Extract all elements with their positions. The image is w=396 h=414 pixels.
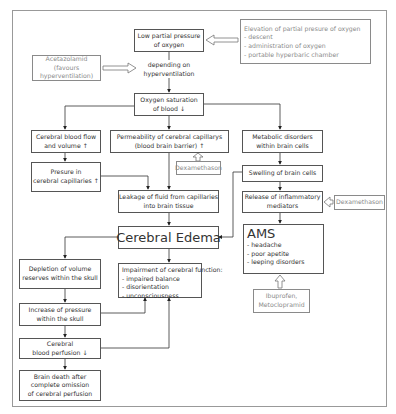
ibuprofen-box: Ibuprofen, Metoclopramid <box>253 289 310 313</box>
cerebral-perfusion-box: Cerebral blood perfusion ↓ <box>19 338 101 359</box>
metabolic-disorders-box: Metabolic disorders within brain cells <box>242 130 323 153</box>
acetazolamid-box: Acetazolamid (favours hyperventilation) <box>32 55 101 81</box>
oxygen-saturation-box: Oxygen saturation of blood ↓ <box>134 93 204 116</box>
impairment-cerebral-function-box: Impairment of cerebral function: - impai… <box>118 263 202 298</box>
inflammatory-mediators-box: Release of inflammatory mediators <box>242 191 323 213</box>
brain-death-box: Brain death after complete omission of c… <box>19 370 101 401</box>
dexamethason-box-2: Dexamethason <box>334 195 385 210</box>
ams-box: AMS - headache - poor apetite - leeping … <box>243 224 324 274</box>
depletion-volume-box: Depletion of volume reserves within the … <box>19 259 101 289</box>
low-partial-pressure-box: Low partial pressure of oxygen <box>134 29 204 52</box>
capillary-pressure-box: Presure in cerebral capillaries ↑ <box>31 162 101 192</box>
swelling-brain-cells-box: Swelling of brain cells <box>242 165 323 182</box>
elevation-oxygen-box: Elevation of partial presure of oxygen -… <box>240 19 371 64</box>
cerebral-blood-flow-box: Cerebral blood flow and volume ↑ <box>31 130 101 153</box>
increase-pressure-box: Increase of pressure within the skull <box>19 303 101 326</box>
permeability-box: Permeability of cerebral capillarys (blo… <box>110 130 229 153</box>
leakage-box: Leakage of fluid from capillaries into b… <box>118 190 219 213</box>
dexamethason-box-1: Dexamethason <box>176 161 221 175</box>
cerebral-edema-box: Cerebral Edema <box>118 226 219 249</box>
depending-on-hyperventilation-label: depending on hyperventilation <box>139 61 199 78</box>
